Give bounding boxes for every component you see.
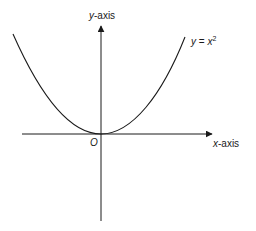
parabola-curve-drawn bbox=[13, 34, 185, 134]
parabola-curve bbox=[13, 34, 185, 169]
parabola-diagram: y-axis y = x2 O x-axis bbox=[0, 0, 256, 231]
y-axis-label: y-axis bbox=[88, 10, 115, 21]
origin-label: O bbox=[90, 137, 98, 148]
x-axis-label: x-axis bbox=[212, 138, 239, 149]
curve-label: y = x2 bbox=[190, 35, 216, 47]
